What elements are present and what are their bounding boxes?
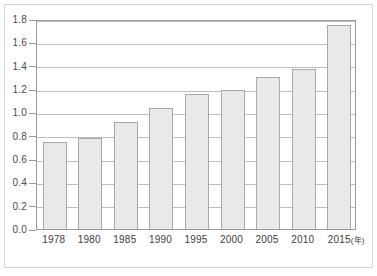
x-axis-label: 2005 xyxy=(250,234,284,246)
x-axis-label: 1980 xyxy=(72,234,106,246)
y-axis-label: 0.4 xyxy=(12,178,27,188)
y-axis-tick xyxy=(29,66,36,67)
bar xyxy=(78,138,102,229)
x-axis-label: 2015(年) xyxy=(320,234,372,247)
x-axis-label: 2010 xyxy=(286,234,320,246)
x-axis-label-text: 2010 xyxy=(291,234,314,245)
bar xyxy=(221,90,245,229)
x-axis-label-text: 2015 xyxy=(328,234,351,245)
y-axis-tick xyxy=(29,20,36,21)
y-axis-tick xyxy=(29,43,36,44)
x-axis-label-text: 1995 xyxy=(184,234,207,245)
y-axis-label: 0.8 xyxy=(12,132,27,142)
x-axis-label-text: 1990 xyxy=(149,234,172,245)
x-axis-label: 1978 xyxy=(37,234,71,246)
y-axis-label: 0.6 xyxy=(12,155,27,165)
y-axis-tick xyxy=(29,230,36,231)
x-axis-label: 1990 xyxy=(143,234,177,246)
y-axis-label: 1.6 xyxy=(12,38,27,48)
x-axis-label-text: 1978 xyxy=(42,234,65,245)
bar xyxy=(256,77,280,229)
bar xyxy=(43,142,67,230)
bar xyxy=(185,94,209,229)
y-axis-tick xyxy=(29,90,36,91)
x-axis: 197819801985199019952000200520102015(年) xyxy=(0,234,377,254)
y-axis-label: 1.8 xyxy=(12,15,27,25)
y-axis-label: 1.2 xyxy=(12,85,27,95)
y-axis-tick xyxy=(29,136,36,137)
plot-area xyxy=(36,20,356,230)
x-axis-label: 1985 xyxy=(108,234,142,246)
y-axis-tick xyxy=(29,183,36,184)
y-axis-tick xyxy=(29,113,36,114)
bar xyxy=(292,69,316,229)
chart-figure: 0.00.20.40.60.81.01.21.41.61.8 197819801… xyxy=(0,0,377,276)
bar-series xyxy=(37,21,355,229)
y-axis-tick xyxy=(29,160,36,161)
x-axis-unit-label: (年) xyxy=(351,236,365,245)
x-axis-label-text: 2005 xyxy=(256,234,279,245)
y-axis-label: 1.0 xyxy=(12,108,27,118)
y-axis-label: 1.4 xyxy=(12,62,27,72)
bar xyxy=(149,108,173,229)
bar xyxy=(327,25,351,229)
x-axis-label-text: 1985 xyxy=(113,234,136,245)
x-axis-label-text: 1980 xyxy=(78,234,101,245)
x-axis-label-text: 2000 xyxy=(220,234,243,245)
y-axis-label: 0.2 xyxy=(12,202,27,212)
y-axis-tick xyxy=(29,206,36,207)
x-axis-label: 2000 xyxy=(215,234,249,246)
x-axis-label: 1995 xyxy=(179,234,213,246)
bar xyxy=(114,122,138,229)
